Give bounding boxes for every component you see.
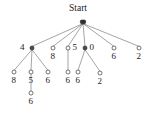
tree-node	[98, 71, 102, 75]
tree-edge	[83, 24, 114, 47]
tree-node	[137, 46, 141, 50]
node-label: 6	[28, 97, 33, 106]
tree-node	[83, 46, 87, 50]
node-label: 8	[11, 76, 16, 85]
tree-node	[29, 70, 33, 74]
tree-node	[12, 70, 16, 74]
tree-node	[66, 46, 70, 50]
node-label: 8	[50, 52, 55, 61]
node-label: 6	[75, 76, 80, 85]
tree-edge	[32, 50, 48, 71]
tree-edge	[31, 50, 32, 71]
tree-edge	[78, 50, 85, 71]
tree-node-root	[80, 20, 85, 24]
node-label: 4	[20, 43, 25, 52]
tree-graphics	[0, 0, 159, 114]
node-label: 5	[28, 76, 33, 85]
node-label: 2	[97, 77, 102, 86]
node-label: 2	[136, 52, 141, 61]
node-label: 5	[73, 43, 78, 52]
tree-node	[46, 70, 50, 74]
root-label: Start	[69, 4, 87, 14]
tree-node	[29, 91, 33, 95]
tree-edge	[14, 50, 32, 71]
tree-node	[66, 70, 70, 74]
tree-diagram-figure: Start4850628566626	[0, 0, 159, 114]
node-label: 6	[45, 76, 50, 85]
tree-node	[30, 46, 34, 50]
tree-node	[112, 46, 116, 50]
tree-node	[76, 70, 80, 74]
tree-edge	[85, 50, 100, 72]
node-label: 0	[90, 43, 95, 52]
tree-node	[51, 46, 55, 50]
node-label: 6	[111, 52, 116, 61]
node-label: 6	[65, 76, 70, 85]
tree-edge	[83, 24, 85, 47]
